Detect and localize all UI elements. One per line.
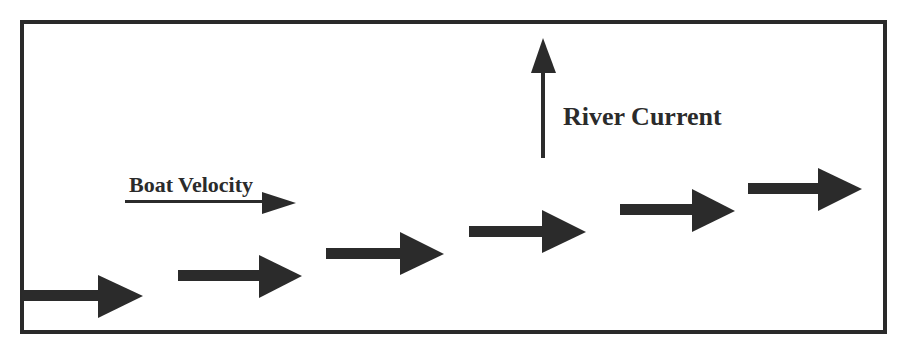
path-arrow-4-icon bbox=[469, 210, 586, 253]
diagram-canvas: River Current Boat Velocity bbox=[0, 0, 900, 349]
river-current-label: River Current bbox=[563, 102, 722, 131]
path-arrow-5-icon bbox=[620, 189, 735, 232]
path-arrow-1-icon bbox=[22, 275, 143, 318]
river-current-arrow-icon bbox=[531, 38, 556, 158]
boat-velocity-label: Boat Velocity bbox=[129, 172, 253, 197]
path-arrow-6-icon bbox=[748, 168, 862, 211]
path-arrow-2-icon bbox=[178, 255, 302, 298]
path-arrow-3-icon bbox=[326, 232, 444, 275]
